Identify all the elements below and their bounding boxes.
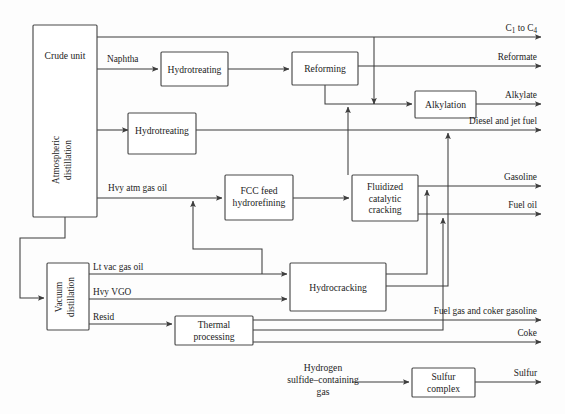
label-c1-to-c4: C1 to C4 <box>506 23 538 35</box>
c1-c4-sub2: 4 <box>533 27 537 35</box>
label-sulfur-complex-line2: complex <box>427 383 460 394</box>
label-reformate: Reformate <box>498 52 537 62</box>
label-thermal-processing-line1: Thermal <box>198 319 231 330</box>
label-sulfur: Sulfur <box>514 368 538 378</box>
label-hvy-atm-gas-oil: Hvy atm gas oil <box>108 183 168 193</box>
label-crude-unit: Crude unit <box>45 50 86 61</box>
label-alkylate: Alkylate <box>505 90 537 100</box>
label-hydrotreating-naphtha: Hydrotreating <box>168 64 222 75</box>
label-atmospheric-distillation-line1: Atmospheric <box>51 136 61 184</box>
label-h2s-gas-line3: gas <box>317 386 330 397</box>
label-fcc-line1: Fluidized <box>367 181 403 192</box>
label-lt-vac-gas-oil: Lt vac gas oil <box>93 262 144 272</box>
label-alkylation: Alkylation <box>425 99 466 110</box>
label-reforming: Reforming <box>304 63 346 74</box>
label-sulfur-complex-line1: Sulfur <box>432 371 457 382</box>
label-fuel-gas-and-coker-gasoline: Fuel gas and coker gasoline <box>434 306 537 316</box>
label-fuel-oil: Fuel oil <box>508 200 537 210</box>
label-diesel-and-jet-fuel: Diesel and jet fuel <box>469 116 537 126</box>
label-hvy-vgo: Hvy VGO <box>93 287 132 297</box>
label-hydrotreating-distillate: Hydrotreating <box>135 125 189 136</box>
product-labels: C1 to C4 Reformate Alkylate Diesel and j… <box>434 23 538 378</box>
label-vacuum-distillation-line2: distillation <box>66 277 76 317</box>
label-h2s-gas-line1: Hydrogen <box>304 362 343 373</box>
label-gasoline: Gasoline <box>504 172 537 182</box>
flow-diagram-canvas: Crude unit Atmospheric distillation Vacu… <box>0 0 565 414</box>
label-fcc-feed-line2: hydrorefining <box>233 197 286 208</box>
label-fcc-feed-line1: FCC feed <box>240 185 277 196</box>
label-atmospheric-distillation-line2: distillation <box>63 140 73 180</box>
label-h2s-gas-line2: sulfide–containing <box>287 374 359 385</box>
label-naphtha: Naphtha <box>107 54 139 64</box>
label-fcc-line2: catalytic <box>369 193 402 204</box>
label-hydrocracking: Hydrocracking <box>309 282 367 293</box>
label-vacuum-distillation-line1: Vacuum <box>54 281 64 312</box>
label-resid: Resid <box>93 312 115 322</box>
line-reforming-to-alkylation <box>325 85 412 104</box>
label-coke: Coke <box>517 328 537 338</box>
label-thermal-processing-line2: processing <box>193 331 234 342</box>
label-fcc-line3: cracking <box>368 204 401 215</box>
process-flow-diagram: Crude unit Atmospheric distillation Vacu… <box>0 0 565 414</box>
unit-boxes: Crude unit Atmospheric distillation Vacu… <box>33 25 476 397</box>
c1-c4-part2: to C <box>515 23 533 33</box>
